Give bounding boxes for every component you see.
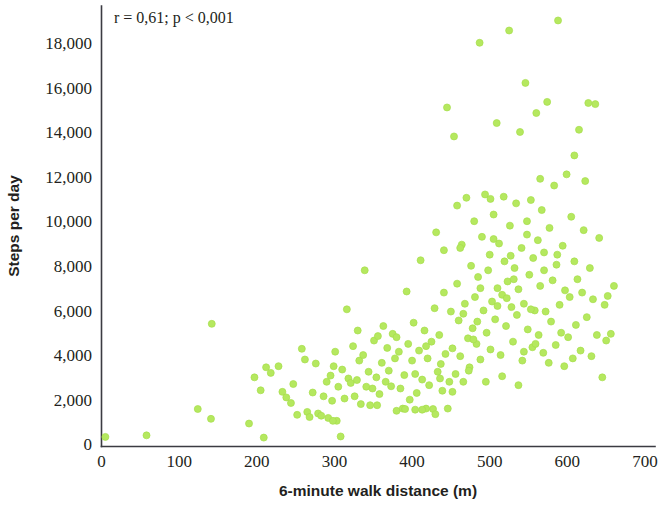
data-point xyxy=(457,353,464,360)
data-point xyxy=(437,375,444,382)
data-point xyxy=(318,412,325,419)
data-point xyxy=(378,359,385,366)
data-point xyxy=(395,348,402,355)
data-point xyxy=(207,415,214,422)
data-point xyxy=(530,255,537,262)
y-tick-label: 4,000 xyxy=(54,346,92,365)
data-point xyxy=(477,285,484,292)
data-point xyxy=(494,302,501,309)
data-point xyxy=(257,387,264,394)
correlation-annotation: r = 0,61; p < 0,001 xyxy=(114,9,234,27)
data-point xyxy=(298,345,305,352)
data-point xyxy=(494,285,501,292)
data-point xyxy=(520,300,527,307)
data-point xyxy=(397,385,404,392)
data-point xyxy=(402,406,409,413)
data-point xyxy=(565,334,572,341)
data-point xyxy=(260,434,267,441)
scatter-plot-figure: 02,0004,0006,0008,00010,00012,00014,0001… xyxy=(0,0,662,507)
chart-canvas: 02,0004,0006,0008,00010,00012,00014,0001… xyxy=(0,0,662,507)
data-point xyxy=(566,294,573,301)
data-point xyxy=(431,305,438,312)
data-point xyxy=(610,282,617,289)
y-tick-label: 14,000 xyxy=(45,123,92,142)
data-point xyxy=(251,374,258,381)
data-point xyxy=(417,257,424,264)
data-point xyxy=(526,271,533,278)
data-point xyxy=(409,357,416,364)
data-point xyxy=(476,39,483,46)
data-point xyxy=(541,249,548,256)
data-point xyxy=(490,211,497,218)
data-point xyxy=(482,378,489,385)
data-point xyxy=(497,352,504,359)
x-axis-title: 6-minute walk distance (m) xyxy=(279,482,477,499)
data-point xyxy=(592,101,599,108)
data-point xyxy=(432,411,439,418)
data-point xyxy=(499,373,506,380)
data-point xyxy=(601,301,608,308)
data-point xyxy=(483,329,490,336)
data-point xyxy=(518,244,525,251)
data-point xyxy=(558,329,565,336)
data-point xyxy=(485,267,492,274)
data-point xyxy=(537,175,544,182)
data-point xyxy=(500,193,507,200)
data-point xyxy=(561,363,568,370)
data-point xyxy=(444,104,451,111)
data-point xyxy=(552,342,559,349)
y-tick-label: 2,000 xyxy=(54,391,92,410)
data-point xyxy=(208,320,215,327)
data-point xyxy=(367,402,374,409)
data-point xyxy=(373,374,380,381)
x-tick-label: 200 xyxy=(244,452,270,471)
data-point xyxy=(461,300,468,307)
data-point xyxy=(360,352,367,359)
data-point xyxy=(510,338,517,345)
data-point xyxy=(275,363,282,370)
data-point xyxy=(576,126,583,133)
data-point xyxy=(439,387,446,394)
data-point xyxy=(320,393,327,400)
data-point xyxy=(405,340,412,347)
data-point xyxy=(517,128,524,135)
data-point xyxy=(460,310,467,317)
data-point xyxy=(391,355,398,362)
data-point xyxy=(290,381,297,388)
data-point xyxy=(510,276,517,283)
data-point xyxy=(515,382,522,389)
data-point xyxy=(374,333,381,340)
data-point xyxy=(323,378,330,385)
data-point xyxy=(533,110,540,117)
data-point xyxy=(412,406,419,413)
data-point xyxy=(452,371,459,378)
data-point xyxy=(440,289,447,296)
x-tick-label: 600 xyxy=(555,452,581,471)
data-point xyxy=(559,242,566,249)
data-point xyxy=(603,337,610,344)
data-point xyxy=(412,371,419,378)
data-point xyxy=(555,17,562,24)
data-point xyxy=(487,346,494,353)
data-point xyxy=(490,236,497,243)
data-point xyxy=(493,120,500,127)
data-point xyxy=(460,378,467,385)
data-point xyxy=(337,433,344,440)
data-point xyxy=(577,347,584,354)
data-point xyxy=(354,327,361,334)
y-tick-label: 8,000 xyxy=(54,257,92,276)
data-point xyxy=(477,356,484,363)
data-point xyxy=(537,282,544,289)
data-point xyxy=(522,79,529,86)
data-point xyxy=(406,396,413,403)
data-point xyxy=(549,277,556,284)
data-point xyxy=(426,382,433,389)
data-point xyxy=(442,350,449,357)
data-point xyxy=(393,334,400,341)
data-point xyxy=(357,401,364,408)
y-tick-label: 6,000 xyxy=(54,302,92,321)
x-tick-label: 100 xyxy=(166,452,192,471)
x-tick-label: 300 xyxy=(322,452,348,471)
data-point xyxy=(503,295,510,302)
data-point xyxy=(309,389,316,396)
